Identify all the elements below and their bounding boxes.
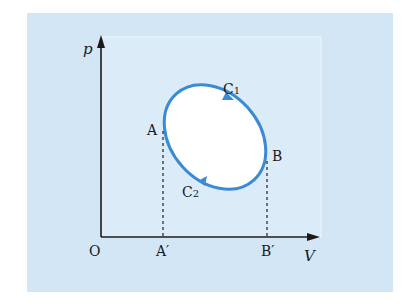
origin-label: O (89, 243, 100, 259)
point-a-prime-label: A′ (155, 243, 169, 259)
point-b-label: B (272, 148, 282, 164)
pv-diagram: p V O A B A′ B′ C1 C2 (0, 0, 410, 307)
y-axis-label: p (83, 40, 93, 58)
point-b-prime-label: B′ (261, 243, 274, 259)
x-axis-label: V (304, 247, 317, 265)
point-a-label: A (146, 122, 158, 138)
